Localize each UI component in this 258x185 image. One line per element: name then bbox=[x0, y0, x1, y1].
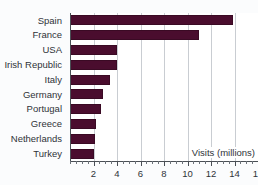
bar-row bbox=[70, 13, 258, 28]
bar bbox=[70, 45, 117, 55]
x-tick-minor bbox=[158, 161, 159, 164]
bar bbox=[70, 75, 110, 85]
x-tick-major bbox=[141, 161, 142, 166]
x-tick-label: 2 bbox=[91, 168, 96, 179]
x-tick-minor bbox=[252, 161, 253, 164]
x-tick-label: 4 bbox=[114, 168, 119, 179]
bar bbox=[70, 149, 94, 159]
plot-area: Visits (millions) bbox=[70, 13, 258, 161]
bar-row bbox=[70, 28, 258, 43]
x-tick-label: 10 bbox=[182, 168, 193, 179]
x-axis: 246810121416 bbox=[70, 161, 258, 185]
x-axis-label: Visits (millions) bbox=[191, 147, 256, 158]
x-tick-label: 12 bbox=[206, 168, 217, 179]
x-tick-minor bbox=[146, 161, 147, 164]
bar bbox=[70, 89, 103, 99]
x-tick-minor bbox=[111, 161, 112, 164]
bar-row bbox=[70, 131, 258, 146]
x-tick-minor bbox=[229, 161, 230, 164]
bar-row bbox=[70, 43, 258, 58]
x-tick-label: 14 bbox=[229, 168, 240, 179]
x-tick-minor bbox=[123, 161, 124, 164]
x-tick-label: 6 bbox=[138, 168, 143, 179]
category-label: Turkey bbox=[0, 146, 66, 161]
bar-row bbox=[70, 57, 258, 72]
bar bbox=[70, 134, 95, 144]
bar-chart: Spain France USA Irish Republic Italy Ge… bbox=[0, 0, 258, 185]
x-tick-minor bbox=[105, 161, 106, 164]
bar-row bbox=[70, 87, 258, 102]
category-label: Spain bbox=[0, 13, 66, 28]
x-tick-minor bbox=[199, 161, 200, 164]
bar bbox=[70, 119, 96, 129]
bar-row bbox=[70, 117, 258, 132]
x-tick-major bbox=[235, 161, 236, 166]
bar-row bbox=[70, 72, 258, 87]
x-tick-minor bbox=[152, 161, 153, 164]
category-label: Netherlands bbox=[0, 131, 66, 146]
x-tick-minor bbox=[217, 161, 218, 164]
bar bbox=[70, 15, 233, 25]
x-tick-major bbox=[211, 161, 212, 166]
x-tick-label: 16 bbox=[253, 168, 258, 179]
x-tick-minor bbox=[135, 161, 136, 164]
x-tick-minor bbox=[193, 161, 194, 164]
x-tick-minor bbox=[76, 161, 77, 164]
x-tick-minor bbox=[70, 161, 71, 164]
x-tick-minor bbox=[240, 161, 241, 164]
x-tick-minor bbox=[223, 161, 224, 164]
category-label: Italy bbox=[0, 72, 66, 87]
x-tick-minor bbox=[176, 161, 177, 164]
x-tick-minor bbox=[88, 161, 89, 164]
x-tick-minor bbox=[182, 161, 183, 164]
x-tick-minor bbox=[246, 161, 247, 164]
bar-series bbox=[70, 13, 258, 161]
bar bbox=[70, 30, 199, 40]
x-tick-minor bbox=[82, 161, 83, 164]
x-tick-major bbox=[164, 161, 165, 166]
bar bbox=[70, 60, 117, 70]
bar-row bbox=[70, 102, 258, 117]
x-tick-minor bbox=[205, 161, 206, 164]
category-label: France bbox=[0, 28, 66, 43]
category-label: Greece bbox=[0, 117, 66, 132]
x-tick-minor bbox=[99, 161, 100, 164]
category-label: Irish Republic bbox=[0, 57, 66, 72]
x-tick-major bbox=[188, 161, 189, 166]
category-label: USA bbox=[0, 43, 66, 58]
category-axis: Spain France USA Irish Republic Italy Ge… bbox=[0, 13, 66, 161]
x-tick-major bbox=[117, 161, 118, 166]
x-tick-label: 8 bbox=[161, 168, 166, 179]
bar bbox=[70, 104, 101, 114]
y-axis-spine bbox=[70, 13, 71, 162]
x-tick-minor bbox=[129, 161, 130, 164]
category-label: Portugal bbox=[0, 102, 66, 117]
x-tick-major bbox=[94, 161, 95, 166]
x-tick-minor bbox=[170, 161, 171, 164]
category-label: Germany bbox=[0, 87, 66, 102]
